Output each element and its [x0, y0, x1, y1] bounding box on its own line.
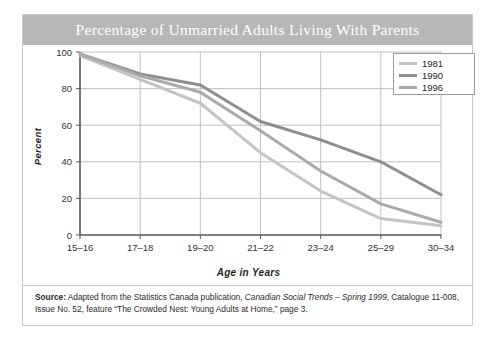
y-tick-label: 100	[56, 47, 72, 58]
source-publication: Canadian Social Trends – Spring 1999	[245, 292, 387, 302]
x-tick-label: 17–18	[127, 242, 153, 253]
x-tick-label: 23–24	[307, 242, 333, 253]
page-title: Percentage of Unmarried Adults Living Wi…	[76, 21, 420, 39]
y-axis-title: Percent	[32, 128, 43, 166]
x-tick-label: 21–22	[247, 242, 273, 253]
y-tick-label: 20	[61, 193, 72, 204]
x-axis-title: Age in Years	[23, 267, 474, 278]
x-tick-label: 30–34	[428, 242, 454, 253]
y-tick-label: 60	[61, 120, 72, 131]
legend-item-1996: 1996	[399, 82, 469, 93]
y-tick-label: 80	[61, 83, 72, 94]
legend-item-1981: 1981	[399, 58, 469, 69]
source-text: Source: Adapted from the Statistics Cana…	[35, 292, 460, 315]
y-tick-label: 0	[67, 230, 72, 241]
chart-title-bar: Percentage of Unmarried Adults Living Wi…	[23, 15, 472, 45]
y-tick-label: 40	[61, 156, 72, 167]
legend-swatch-1981	[399, 62, 417, 65]
x-tick-label: 19–20	[187, 242, 213, 253]
x-tick-label: 15–16	[67, 242, 93, 253]
chart-card: Percentage of Unmarried Adults Living Wi…	[22, 14, 473, 326]
x-tick-label: 25–29	[368, 242, 394, 253]
legend-swatch-1990	[399, 74, 417, 77]
plot-area: 02040608010015–1617–1819–2021–2223–2425–…	[23, 45, 472, 287]
legend-item-1990: 1990	[399, 70, 469, 81]
legend-label-1996: 1996	[422, 83, 443, 93]
legend-label-1990: 1990	[422, 71, 443, 81]
legend-swatch-1996	[399, 86, 417, 89]
screenshot-root: Percentage of Unmarried Adults Living Wi…	[0, 0, 495, 341]
source-text-part1: Adapted from the Statistics Canada publi…	[66, 292, 245, 302]
source-label: Source:	[35, 292, 66, 302]
source-note: Source: Adapted from the Statistics Cana…	[23, 285, 472, 325]
legend-label-1981: 1981	[422, 59, 443, 69]
chart-legend: 1981 1990 1996	[393, 53, 475, 95]
